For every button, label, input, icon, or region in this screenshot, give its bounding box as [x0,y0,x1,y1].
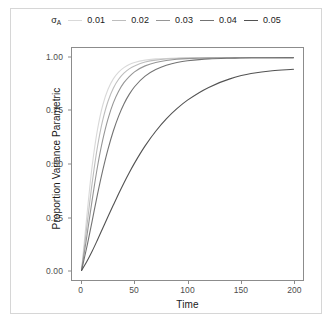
x-axis-tick-mark [294,281,295,284]
x-axis-tick-label: 50 [129,285,139,295]
series-line-0.05 [82,69,294,270]
legend-label: 0.05 [263,15,281,25]
legend-swatch-icon [112,20,126,21]
plot-panel [71,47,304,281]
x-axis-title: Time [71,299,304,310]
legend-entry[interactable]: 0.04 [200,15,237,25]
legend-swatch-icon [244,20,258,21]
x-axis-tick-label: 150 [234,285,248,295]
legend-swatch-icon [156,20,170,21]
curves-svg [72,48,303,280]
x-axis-tick-label: 200 [287,285,301,295]
chart-legend: σA 0.01 0.02 0.03 0.04 0.05 [11,15,321,25]
plot-area: 0.000.250.500.751.00 050100150200 Time P… [11,37,323,315]
x-axis-tick-mark [81,281,82,284]
legend-entry[interactable]: 0.03 [156,15,193,25]
legend-label: 0.03 [175,15,193,25]
legend-swatch-icon [68,20,82,21]
legend-entry[interactable]: 0.02 [112,15,149,25]
series-line-0.02 [82,58,294,271]
series-line-0.01 [82,58,294,271]
x-axis-tick-mark [188,281,189,284]
series-line-0.04 [82,58,294,271]
legend-swatch-icon [200,20,214,21]
x-axis-tick-label: 100 [180,285,194,295]
figure-card: σA 0.01 0.02 0.03 0.04 0.05 0.000.250.50… [10,8,322,314]
legend-label: 0.01 [87,15,105,25]
legend-title: σA [51,15,61,25]
x-axis-tick-label: 0 [78,285,83,295]
legend-label: 0.04 [219,15,237,25]
series-line-0.03 [82,58,294,271]
y-axis-tick-marks [11,47,71,281]
y-axis-title: Proportion Variance Parametric [51,42,62,276]
x-axis-tick-labels: 050100150200 [71,285,304,299]
x-axis-tick-mark [134,281,135,284]
legend-label: 0.02 [131,15,149,25]
legend-entry[interactable]: 0.05 [244,15,281,25]
legend-entry[interactable]: 0.01 [68,15,105,25]
x-axis-tick-mark [241,281,242,284]
